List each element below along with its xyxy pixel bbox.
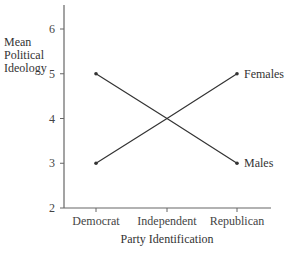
x-ticks: DemocratIndependentRepublican: [72, 208, 264, 228]
line-chart: 23456 DemocratIndependentRepublican Mean…: [0, 0, 299, 259]
axes: [64, 5, 271, 208]
data-point-males: [235, 161, 239, 165]
x-tick-label-independent: Independent: [137, 214, 197, 228]
series-label-females: Females: [244, 67, 284, 81]
x-tick-label-democrat: Democrat: [72, 214, 120, 228]
y-axis-title: MeanPoliticalIdeology: [4, 35, 47, 75]
data-point-females: [94, 161, 98, 165]
data-point-females: [235, 72, 239, 76]
y-tick-label: 5: [49, 67, 55, 81]
y-axis-title-line: Mean: [4, 35, 31, 49]
y-tick-label: 6: [49, 22, 55, 36]
y-ticks: 23456: [49, 22, 64, 215]
series-label-males: Males: [244, 156, 274, 170]
data-point-males: [94, 72, 98, 76]
x-tick-label-republican: Republican: [210, 214, 265, 228]
y-axis-title-line: Political: [4, 48, 45, 62]
y-axis-title-line: Ideology: [4, 61, 47, 75]
y-tick-label: 3: [49, 156, 55, 170]
series-group: FemalesMales: [94, 67, 284, 171]
y-tick-label: 4: [49, 112, 55, 126]
y-tick-label: 2: [49, 201, 55, 215]
x-axis-title: Party Identification: [121, 232, 214, 246]
